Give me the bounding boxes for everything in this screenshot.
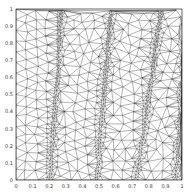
- y-tick-label: 0.5: [5, 91, 13, 97]
- y-tick-label: 0.1: [5, 160, 13, 166]
- y-tick-label: 0.8: [5, 40, 13, 46]
- y-tick-label: 0.6: [5, 74, 13, 80]
- y-tick-label: 0.2: [5, 143, 13, 149]
- y-tick-label: 1: [10, 6, 13, 12]
- y-tick-label: 0.4: [5, 108, 13, 114]
- y-tick-label: 0.7: [5, 57, 13, 63]
- x-tick-label: 0.2: [45, 183, 53, 189]
- y-tick-label: 0.3: [5, 126, 13, 132]
- x-tick-label: 0: [14, 183, 17, 189]
- x-tick-label: 0.8: [145, 183, 153, 189]
- y-tick-label: 0: [10, 177, 13, 183]
- x-tick-label: 0.6: [112, 183, 120, 189]
- mesh-plot: 00.10.20.30.40.50.60.70.80.91 00.10.20.3…: [0, 0, 192, 196]
- x-tick-label: 0.7: [128, 183, 136, 189]
- x-tick-label: 0.4: [78, 183, 86, 189]
- x-tick-label: 1: [180, 183, 183, 189]
- x-tick-label: 0.5: [95, 183, 103, 189]
- y-tick-label: 0.9: [5, 23, 13, 29]
- x-tick-label: 0.3: [62, 183, 70, 189]
- x-tick-label: 0.9: [161, 183, 169, 189]
- x-tick-label: 0.1: [29, 183, 37, 189]
